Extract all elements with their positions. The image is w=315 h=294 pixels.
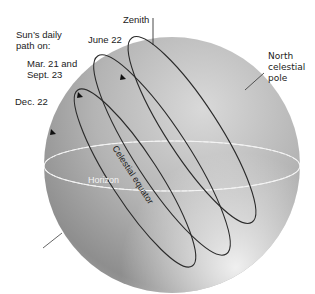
south-pole-leader bbox=[43, 233, 62, 248]
north-celestial-pole-label: North celestial pole bbox=[268, 51, 305, 84]
horizon-label: Horizon bbox=[88, 175, 119, 185]
zenith-label: Zenith bbox=[123, 14, 149, 25]
label-equinox: Mar. 21 and Sept. 23 bbox=[27, 58, 77, 80]
label-december: Dec. 22 bbox=[15, 96, 48, 107]
sun-path-caption: Sun’s daily path on: bbox=[16, 29, 62, 51]
label-june: June 22 bbox=[88, 34, 122, 45]
